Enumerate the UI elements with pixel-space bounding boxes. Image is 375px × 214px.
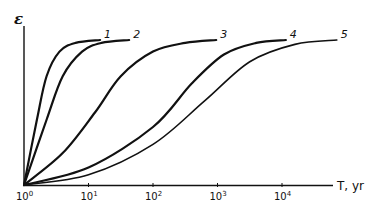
- curve-1: [24, 40, 100, 185]
- curves: [24, 40, 337, 185]
- axes: [23, 26, 333, 186]
- x-tick-label: 104: [274, 190, 292, 202]
- x-tick-label: 102: [145, 190, 162, 202]
- x-tick-label: 101: [81, 190, 98, 202]
- y-axis-label: ε: [14, 10, 23, 28]
- curve-label-4: 4: [290, 28, 297, 41]
- curve-2: [24, 40, 129, 185]
- x-tick-label: 100: [16, 190, 33, 202]
- chart: 100101102103104 12345 ε T, yr: [0, 0, 375, 214]
- x-tick-label: 103: [210, 190, 227, 202]
- x-axis-label: T, yr: [336, 179, 364, 193]
- curve-4: [24, 40, 286, 185]
- curve-label-3: 3: [220, 28, 227, 41]
- curve-labels: 12345: [104, 28, 348, 41]
- curve-label-1: 1: [104, 28, 111, 41]
- curve-label-2: 2: [133, 28, 140, 41]
- curve-label-5: 5: [341, 28, 348, 41]
